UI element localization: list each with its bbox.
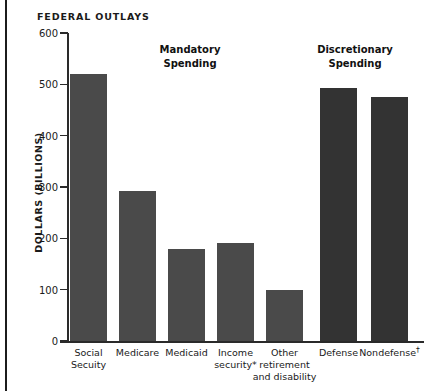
- bar: [217, 243, 254, 341]
- chart-figure: FEDERAL OUTLAYS DOLLARS (BILLIONS) 01002…: [0, 0, 434, 391]
- bar: [320, 88, 357, 341]
- category-label-line: Secuity: [52, 359, 126, 371]
- bar: [371, 97, 408, 341]
- y-tick-label: 600: [2, 28, 58, 39]
- y-tick-label: 300: [2, 182, 58, 193]
- y-tick-mark: [60, 186, 68, 188]
- group-heading-line: Spending: [290, 57, 420, 71]
- group-heading-line: Mandatory: [130, 43, 250, 57]
- y-tick-label: 100: [2, 284, 58, 295]
- bar: [70, 74, 107, 341]
- y-tick-mark: [60, 340, 68, 342]
- category-label-line: Nondefense†: [353, 347, 427, 359]
- y-tick-mark: [60, 84, 68, 86]
- group-heading-line: Spending: [130, 57, 250, 71]
- group-heading: DiscretionarySpending: [290, 43, 420, 70]
- y-tick-label: 400: [2, 130, 58, 141]
- y-tick-label: 200: [2, 233, 58, 244]
- y-tick-label: 500: [2, 79, 58, 90]
- group-heading-line: Discretionary: [290, 43, 420, 57]
- page-edge-rule: [5, 0, 7, 391]
- y-tick-mark: [60, 289, 68, 291]
- chart-title: FEDERAL OUTLAYS: [37, 11, 150, 22]
- footnote-dagger: †: [416, 345, 420, 354]
- y-tick-label: 0: [2, 336, 58, 347]
- y-tick-mark: [60, 238, 68, 240]
- bar: [119, 191, 156, 341]
- bar: [168, 249, 205, 341]
- category-label-line: and disability: [248, 371, 322, 383]
- y-tick-mark: [60, 32, 68, 34]
- x-axis-line: [60, 341, 424, 343]
- group-heading: MandatorySpending: [130, 43, 250, 70]
- category-label-line: retirement: [248, 359, 322, 371]
- y-tick-mark: [60, 135, 68, 137]
- category-label: Nondefense†: [353, 347, 427, 359]
- bar: [266, 290, 303, 341]
